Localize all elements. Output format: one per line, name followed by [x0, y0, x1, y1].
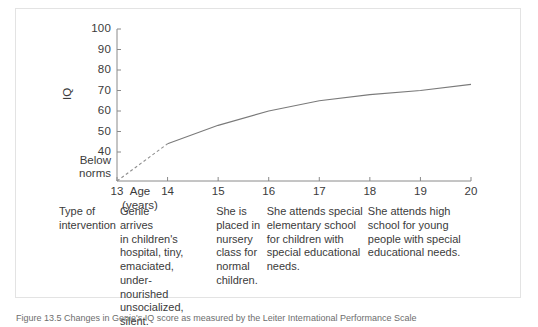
x-tick-marks: [117, 177, 471, 181]
intervention-annotation-line: normal: [216, 260, 272, 274]
intervention-annotation: Genie arrivesin children'shospital, tiny…: [120, 205, 184, 327]
intervention-annotation-line: educational needs.: [368, 246, 473, 260]
x-tick-label: 19: [409, 185, 431, 199]
intervention-row-label: Type of intervention: [59, 205, 116, 233]
intervention-annotation-line: under-: [120, 274, 184, 288]
intervention-annotation-line: emaciated,: [120, 260, 184, 274]
x-tick-label: 18: [359, 185, 381, 199]
y-tick-marks: [117, 29, 121, 152]
intervention-row-label-line1: Type of: [59, 205, 116, 219]
intervention-annotation-line: elementary school: [267, 219, 367, 233]
intervention-annotation-line: placed in: [216, 219, 272, 233]
chart-plot-area: IQ 100908070605040Belownorms 13141516171…: [16, 9, 522, 299]
intervention-annotation-line: for children with: [267, 233, 367, 247]
series-line-estimated: [117, 144, 168, 181]
intervention-annotation-line: people with special: [368, 233, 473, 247]
intervention-annotation-line: special educational: [267, 246, 367, 260]
intervention-row-label-line2: intervention: [59, 219, 116, 233]
x-tick-label: 15: [207, 185, 229, 199]
intervention-annotation-line: She attends high: [368, 205, 473, 219]
intervention-annotation-line: needs.: [267, 260, 367, 274]
y-tick-label: 60: [67, 104, 111, 118]
intervention-annotation-line: children.: [216, 274, 272, 288]
intervention-annotation-line: class for: [216, 246, 272, 260]
series-line-measured: [168, 84, 471, 143]
intervention-annotation-line: nursery: [216, 233, 272, 247]
y-tick-label: 80: [67, 63, 111, 77]
y-tick-label: 90: [67, 43, 111, 57]
figure-caption: Figure 13.5 Changes in Genie's IQ score …: [16, 313, 516, 323]
figure-frame: IQ 100908070605040Belownorms 13141516171…: [15, 8, 521, 298]
intervention-annotation-line: She attends special: [267, 205, 367, 219]
intervention-annotation-line: She is: [216, 205, 272, 219]
y-tick-label: 100: [67, 22, 111, 36]
intervention-annotation-line: in children's: [120, 233, 184, 247]
y-tick-label: 70: [67, 84, 111, 98]
y-baseline-label: norms: [67, 167, 111, 181]
intervention-annotation: She attends specialelementary schoolfor …: [267, 205, 367, 274]
x-tick-label: 20: [460, 185, 482, 199]
x-tick-label: 17: [308, 185, 330, 199]
intervention-annotation-line: hospital, tiny,: [120, 246, 184, 260]
intervention-annotation-line: Genie arrives: [120, 205, 184, 233]
y-tick-label: 50: [67, 125, 111, 139]
y-baseline-label: Below: [67, 154, 111, 168]
intervention-annotation-line: nourished: [120, 288, 184, 302]
intervention-annotation: She attends highschool for youngpeople w…: [368, 205, 473, 260]
intervention-annotation: She isplaced innurseryclass fornormalchi…: [216, 205, 272, 288]
intervention-annotation-line: school for young: [368, 219, 473, 233]
x-axis-title-line1: Age: [113, 185, 167, 199]
x-tick-label: 16: [258, 185, 280, 199]
